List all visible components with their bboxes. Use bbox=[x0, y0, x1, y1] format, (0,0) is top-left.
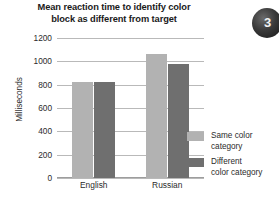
legend-label-same-line-2: category bbox=[211, 142, 279, 153]
legend-item-different-color-category: Different color category bbox=[187, 157, 279, 178]
chart-figure: Mean reaction time to identify color blo… bbox=[0, 0, 279, 205]
y-axis-tick-label: 400 bbox=[38, 126, 52, 136]
legend-swatch-icon-different bbox=[187, 158, 204, 167]
legend-item-same-color-category: Same color category bbox=[187, 131, 279, 152]
legend-label-same-line-1: Same color bbox=[211, 131, 279, 142]
chart-title-line-1: Mean reaction time to identify color bbox=[14, 1, 214, 13]
y-axis-tick-label: 200 bbox=[38, 150, 52, 160]
legend-swatch-icon-same bbox=[187, 132, 204, 141]
y-axis-tick-label: 600 bbox=[38, 103, 52, 113]
page-number-badge-label: 3 bbox=[264, 15, 271, 30]
chart-title-line-2: block as different from target bbox=[14, 13, 214, 25]
legend-label-different-line-1: Different bbox=[211, 157, 279, 168]
gridline: 0 bbox=[57, 178, 204, 179]
bars-layer bbox=[57, 38, 204, 178]
page-number-badge: 3 bbox=[252, 8, 279, 38]
chart-title: Mean reaction time to identify color blo… bbox=[14, 1, 214, 26]
plot-area: 020040060080010001200 EnglishRussian bbox=[57, 38, 204, 178]
legend: Same color category Different color cate… bbox=[187, 131, 279, 183]
bar bbox=[168, 64, 189, 178]
y-axis-tick-label: 1000 bbox=[34, 56, 52, 66]
legend-label-different-line-2: color category bbox=[211, 168, 279, 179]
x-axis-tick-label: Russian bbox=[152, 180, 182, 190]
y-axis-tick-label: 800 bbox=[38, 80, 52, 90]
y-axis-tick-label: 1200 bbox=[34, 33, 52, 43]
bar bbox=[146, 54, 167, 178]
y-axis-tick-label: 0 bbox=[47, 173, 52, 183]
x-axis-tick-label: English bbox=[80, 180, 107, 190]
y-axis-label: Milliseconds bbox=[15, 55, 24, 145]
bar bbox=[94, 82, 115, 178]
bar bbox=[72, 82, 93, 178]
